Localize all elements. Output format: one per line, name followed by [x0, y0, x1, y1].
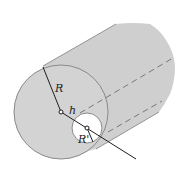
hole-axis-center	[85, 126, 89, 130]
label-R: R	[54, 82, 63, 95]
main-axis-center	[59, 110, 63, 114]
cylinder-diagram: R h R'	[0, 0, 186, 171]
label-h: h	[69, 104, 76, 117]
label-R-prime: R'	[77, 133, 89, 146]
